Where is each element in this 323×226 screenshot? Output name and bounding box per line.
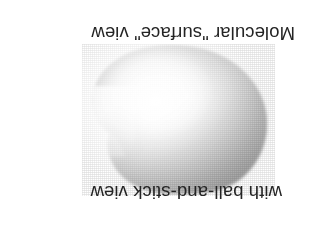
figure-canvas: Molecular "surface" view with ball-and-s… <box>0 0 323 226</box>
caption-molecular-surface-view: Molecular "surface" view <box>91 23 295 43</box>
caption-ball-and-stick-view: with ball-and-stick view <box>90 182 282 202</box>
scanned-figure-layer: Molecular "surface" view with ball-and-s… <box>0 0 323 226</box>
molecular-surface-blob <box>82 44 275 196</box>
